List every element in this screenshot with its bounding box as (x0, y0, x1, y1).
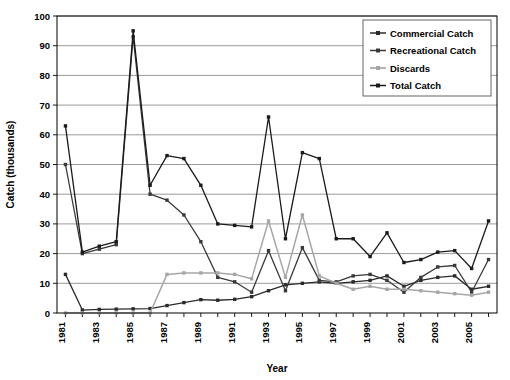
chart-canvas: 0102030405060708090100Catch (thousands)1… (0, 0, 510, 380)
series-marker (267, 249, 270, 252)
series-marker (301, 151, 304, 154)
series-marker (131, 29, 134, 32)
y-axis-title: Catch (thousands) (5, 121, 16, 209)
series-marker (250, 295, 253, 298)
series-marker (64, 124, 67, 127)
y-tick-label: 100 (34, 11, 50, 22)
series-marker (284, 289, 287, 292)
x-tick-label: 1997 (327, 322, 338, 343)
series-marker (199, 271, 202, 274)
series-marker (318, 279, 321, 282)
series-marker (233, 280, 236, 283)
series-marker (64, 273, 67, 276)
series-marker (267, 115, 270, 118)
series-marker (64, 163, 67, 166)
series-marker (487, 285, 490, 288)
series-marker (165, 273, 168, 276)
series-marker (318, 157, 321, 160)
series-marker (98, 308, 101, 311)
legend-marker (376, 49, 380, 53)
x-tick-label: 2003 (429, 322, 440, 343)
series-marker (335, 237, 338, 240)
series-marker (402, 285, 405, 288)
series-marker (470, 291, 473, 294)
series-marker (470, 267, 473, 270)
x-tick-label: 1999 (361, 322, 372, 343)
y-tick-label: 70 (39, 100, 50, 111)
series-marker (351, 288, 354, 291)
series-marker (385, 274, 388, 277)
x-tick-label: 1987 (158, 322, 169, 343)
series-marker (368, 255, 371, 258)
series-marker (250, 277, 253, 280)
series-marker (453, 292, 456, 295)
series-marker (199, 240, 202, 243)
x-tick-label: 1991 (226, 321, 237, 343)
x-tick-label: 1993 (260, 322, 271, 343)
y-tick-label: 10 (39, 278, 50, 289)
series-marker (368, 273, 371, 276)
series-marker (351, 280, 354, 283)
series-marker (115, 240, 118, 243)
series-marker (233, 273, 236, 276)
series-marker (115, 243, 118, 246)
series-marker (182, 213, 185, 216)
series-marker (115, 307, 118, 310)
series-marker (335, 282, 338, 285)
series-marker (402, 291, 405, 294)
series-marker (301, 246, 304, 249)
y-tick-label: 0 (45, 308, 50, 319)
series-marker (470, 293, 473, 296)
series-marker (182, 157, 185, 160)
catch-trend-chart: 0102030405060708090100Catch (thousands)1… (0, 0, 510, 380)
series-marker (385, 288, 388, 291)
series-marker (165, 304, 168, 307)
series-marker (182, 271, 185, 274)
y-tick-label: 80 (39, 70, 50, 81)
series-marker (453, 274, 456, 277)
series-marker (199, 184, 202, 187)
legend-label: Discards (390, 63, 430, 74)
series-marker (351, 274, 354, 277)
series-marker (301, 213, 304, 216)
series-marker (487, 291, 490, 294)
series-marker (81, 250, 84, 253)
series-marker (182, 301, 185, 304)
x-tick-label: 1989 (192, 322, 203, 343)
series-marker (453, 249, 456, 252)
series-marker (148, 193, 151, 196)
series-marker (453, 264, 456, 267)
legend: Commercial CatchRecreational CatchDiscar… (363, 20, 491, 96)
x-tick-label: 1985 (124, 321, 135, 343)
series-marker (385, 231, 388, 234)
series-marker (233, 298, 236, 301)
series-marker (402, 288, 405, 291)
y-tick-label: 20 (39, 248, 50, 259)
legend-label: Total Catch (390, 80, 441, 91)
y-axis: 0102030405060708090100 (34, 11, 57, 319)
series-marker (436, 276, 439, 279)
series-marker (250, 291, 253, 294)
series-marker (351, 237, 354, 240)
x-axis-title: Year (266, 363, 287, 374)
series-marker (216, 222, 219, 225)
series-marker (301, 282, 304, 285)
series-marker (233, 224, 236, 227)
series-marker (436, 265, 439, 268)
y-tick-label: 30 (39, 218, 50, 229)
series-marker (250, 225, 253, 228)
y-tick-label: 90 (39, 40, 50, 51)
series-marker (385, 279, 388, 282)
legend-label: Recreational Catch (390, 45, 476, 56)
x-tick-label: 2001 (395, 321, 406, 343)
x-tick-label: 2005 (463, 321, 474, 343)
series-marker (402, 261, 405, 264)
series-marker (487, 219, 490, 222)
x-tick-label: 1981 (56, 321, 67, 343)
y-tick-label: 50 (39, 159, 50, 170)
series-marker (81, 308, 84, 311)
series-marker (267, 289, 270, 292)
x-axis: 1981198319851987198919911993199519971999… (56, 313, 488, 343)
series-marker (148, 184, 151, 187)
y-tick-label: 40 (39, 189, 50, 200)
